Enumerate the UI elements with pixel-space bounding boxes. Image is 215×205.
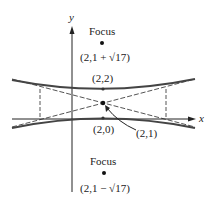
upper-focus-point (100, 41, 104, 45)
upper-focus-label: Focus (89, 26, 115, 37)
x-axis-label: x (199, 113, 204, 124)
lower-focus-label: Focus (90, 156, 116, 167)
upper-vertex-point (101, 87, 104, 90)
y-axis-label: y (69, 12, 74, 23)
upper-focus-coord: (2,1 + √17) (80, 52, 130, 63)
upper-vertex-coord: (2,2) (92, 73, 113, 84)
center-point (101, 101, 106, 106)
lower-vertex-point (101, 116, 104, 119)
lower-vertex-coord: (2,0) (93, 124, 114, 135)
lower-focus-coord: (2,1 − √17) (80, 183, 130, 194)
lower-focus-point (102, 171, 106, 175)
y-axis (70, 26, 75, 192)
center-coord: (2,1) (136, 128, 157, 139)
